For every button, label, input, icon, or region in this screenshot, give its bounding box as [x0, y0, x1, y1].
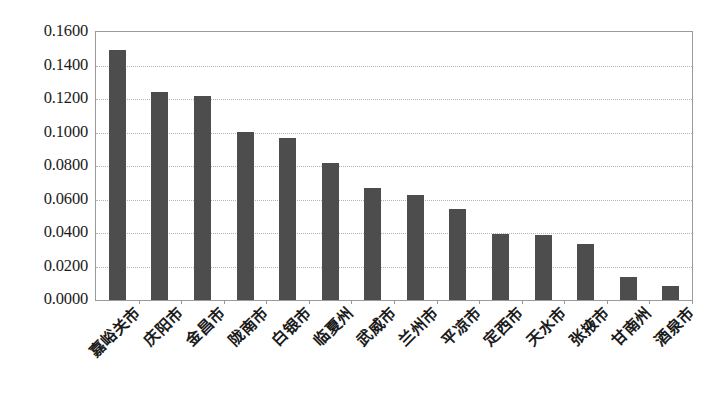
x-axis-tick-label: 白银市 — [269, 304, 315, 350]
x-axis-tick-label: 陇南市 — [226, 304, 272, 350]
x-axis-tick-label: 庆阳市 — [141, 304, 187, 350]
y-axis-tick-label: 0.1400 — [0, 57, 88, 73]
y-axis-tick-label: 0.0000 — [0, 291, 88, 307]
bar — [577, 244, 594, 300]
x-axis-tick-label: 张掖市 — [567, 304, 613, 350]
bar — [662, 286, 679, 300]
y-axis: 0.16000.14000.12000.10000.08000.06000.04… — [0, 31, 88, 299]
y-axis-tick-label: 0.1600 — [0, 23, 88, 39]
bar — [322, 163, 339, 300]
bar — [237, 132, 254, 300]
plot-area — [95, 31, 693, 301]
y-axis-tick-label: 0.1000 — [0, 124, 88, 140]
x-axis: 嘉峪关市庆阳市金昌市陇南市白银市临夏州武威市兰州市平凉市定西市天水市张掖市甘南州… — [95, 300, 691, 400]
y-axis-tick-label: 0.0600 — [0, 191, 88, 207]
y-axis-tick-label: 0.0800 — [0, 157, 88, 173]
bar — [279, 138, 296, 300]
bar — [364, 188, 381, 300]
x-axis-tick-label: 酒泉市 — [652, 304, 698, 350]
x-axis-tick-mark — [692, 300, 693, 304]
x-axis-tick-label: 临夏州 — [311, 304, 357, 350]
y-axis-tick-label: 0.0200 — [0, 258, 88, 274]
x-axis-tick-label: 甘南州 — [609, 304, 655, 350]
bar — [449, 209, 466, 300]
x-axis-tick-label: 武威市 — [354, 304, 400, 350]
y-axis-tick-label: 0.0400 — [0, 224, 88, 240]
bar — [407, 195, 424, 300]
bar — [620, 277, 637, 300]
x-axis-tick-label: 兰州市 — [396, 304, 442, 350]
x-axis-tick-label: 平凉市 — [439, 304, 485, 350]
y-axis-tick-label: 0.1200 — [0, 90, 88, 106]
x-axis-tick-label: 金昌市 — [183, 304, 229, 350]
bars-layer — [96, 32, 692, 300]
bar-chart: 0.16000.14000.12000.10000.08000.06000.04… — [0, 0, 725, 405]
x-axis-tick-label: 定西市 — [481, 304, 527, 350]
bar — [194, 96, 211, 300]
bar — [492, 234, 509, 300]
bar — [151, 92, 168, 300]
x-axis-tick-label: 嘉峪关市 — [87, 304, 144, 361]
bar — [535, 235, 552, 300]
bar — [109, 50, 126, 300]
x-axis-tick-label: 天水市 — [524, 304, 570, 350]
